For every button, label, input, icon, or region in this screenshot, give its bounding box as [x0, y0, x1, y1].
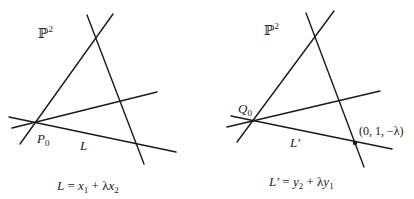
left-line-label: L	[79, 138, 87, 153]
diagram-canvas: ℙ2 P0 L L = x1 + λx2 ℙ2 Q0 L′ (0, 1, −λ)…	[0, 0, 414, 199]
right-line-through-q0-steep	[237, 11, 334, 142]
left-point-label-p0: P0	[36, 131, 50, 148]
left-panel: ℙ2 P0 L L = x1 + λx2	[9, 14, 176, 195]
right-line-label: L′	[289, 135, 300, 150]
right-space-label: ℙ2	[264, 21, 279, 38]
left-line-descending	[87, 15, 144, 164]
left-line-through-p0-steep	[20, 14, 113, 144]
right-formula: L′ = y2 + λy1	[268, 174, 334, 191]
marked-point-dot	[353, 141, 357, 145]
left-formula: L = x1 + λx2	[56, 178, 119, 195]
left-space-label: ℙ2	[38, 24, 53, 41]
left-line-L	[9, 117, 176, 152]
marked-point-label: (0, 1, −λ)	[359, 124, 404, 138]
right-point-label-q0: Q0	[238, 101, 252, 118]
right-panel: ℙ2 Q0 L′ (0, 1, −λ) L′ = y2 + λy1	[227, 11, 404, 191]
